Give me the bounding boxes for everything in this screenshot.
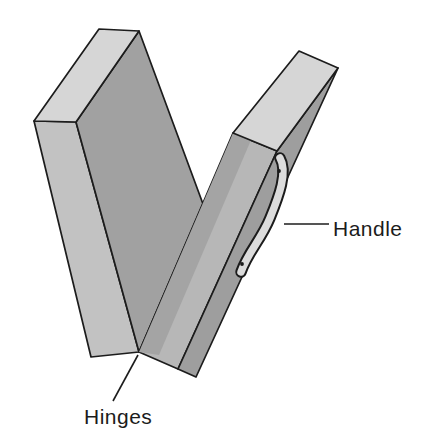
- hinged-boards-figure: Handle Hinges: [0, 0, 421, 446]
- hinges-callout: Hinges: [84, 355, 152, 428]
- handle-callout: Handle: [284, 217, 403, 240]
- handle-label: Handle: [333, 217, 403, 240]
- handle-screw-top: [277, 169, 281, 173]
- handle-screw-bottom: [240, 262, 244, 266]
- hinges-label: Hinges: [84, 405, 152, 428]
- diagram-canvas: Handle Hinges: [0, 0, 421, 446]
- hinges-leader-line: [113, 355, 138, 401]
